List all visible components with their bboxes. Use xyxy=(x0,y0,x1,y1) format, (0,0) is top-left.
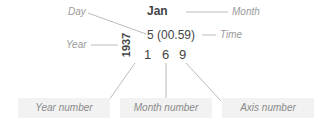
digit-year: 1 xyxy=(144,47,151,62)
time-label: Time xyxy=(220,29,242,40)
time-value: 5 (00.59) xyxy=(147,28,195,42)
year-value: 1937 xyxy=(120,33,132,57)
axis-number-box: Axis number xyxy=(222,98,314,118)
month-value: Jan xyxy=(147,4,168,18)
month-label: Month xyxy=(232,6,260,17)
digit-axis: 9 xyxy=(179,47,186,62)
month-number-box: Month number xyxy=(120,98,212,118)
year-label: Year xyxy=(66,39,87,50)
year-number-box: Year number xyxy=(18,98,110,118)
day-label: Day xyxy=(68,6,86,17)
digit-month: 6 xyxy=(162,47,169,62)
